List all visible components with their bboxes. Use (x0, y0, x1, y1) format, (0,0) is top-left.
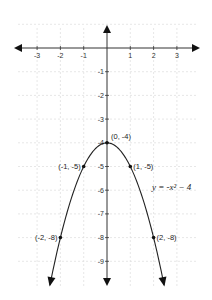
x-tick-label: 1 (128, 52, 132, 59)
data-point-label: (1, -5) (133, 162, 154, 171)
axes (14, 25, 200, 286)
data-point-marker (82, 165, 86, 169)
arrow-left-icon (14, 44, 22, 52)
arrow-right-icon (192, 44, 200, 52)
data-point-label: (-1, -5) (58, 162, 81, 171)
y-tick-label: -3 (98, 116, 104, 123)
data-point-marker (59, 236, 63, 240)
x-tick-label: -2 (57, 52, 63, 59)
data-point-marker (105, 141, 109, 145)
equation-label: y = -x² − 4 (151, 182, 192, 192)
data-point-label: (2, -8) (157, 233, 178, 242)
y-tick-label: -9 (98, 258, 104, 265)
y-tick-label: -6 (98, 187, 104, 194)
y-tick-label: -2 (98, 92, 104, 99)
y-tick-label: -1 (98, 68, 104, 75)
data-point-label: (-2, -8) (35, 233, 58, 242)
data-point-marker (129, 165, 133, 169)
data-point-label: (0, -4) (111, 132, 132, 141)
y-tick-label: -5 (98, 163, 104, 170)
data-point-marker (152, 236, 156, 240)
arrow-down-icon (103, 278, 111, 286)
y-tick-label: -7 (98, 210, 104, 217)
x-tick-label: -1 (81, 52, 87, 59)
curve-arrow-left-icon (48, 276, 56, 286)
parabola-chart: -3-2-1123 -1-2-3-4-5-6-7-8-9 (0, -4)(-1,… (0, 0, 212, 300)
arrow-up-icon (103, 25, 111, 33)
x-tick-label: -3 (34, 52, 40, 59)
curve-arrow-right-icon (159, 276, 167, 286)
x-tick-label: 3 (175, 52, 179, 59)
x-tick-label: 2 (152, 52, 156, 59)
y-tick-label: -8 (98, 234, 104, 241)
